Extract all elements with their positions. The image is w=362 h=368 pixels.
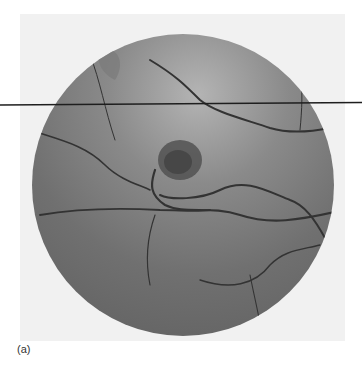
- fundus-figure: (a): [0, 0, 362, 368]
- retina-disc: [32, 34, 334, 336]
- panel-label: (a): [17, 343, 30, 355]
- fundus-image: [0, 0, 362, 368]
